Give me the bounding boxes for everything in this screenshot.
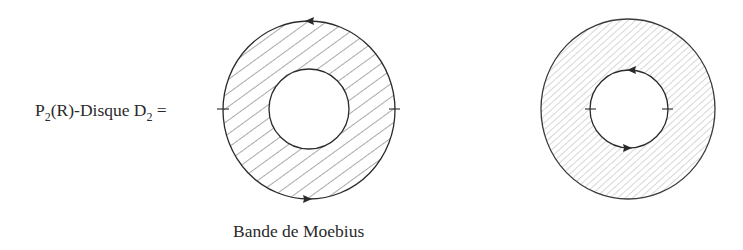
annulus-diagram	[530, 10, 730, 210]
label-middle: (R)-Disque D	[51, 100, 147, 120]
caption-moebius-band: Bande de Moebius	[233, 221, 364, 241]
moebius-band-diagram	[200, 10, 420, 210]
label-prefix: P	[35, 100, 45, 120]
moebius-diagram-figure: P2(R)-Disque D2 = Bande de Moebius	[0, 0, 743, 250]
left-equation-label: P2(R)-Disque D2 =	[35, 100, 167, 124]
inner-boundary-circle	[590, 70, 668, 148]
label-suffix: =	[152, 100, 166, 120]
inner-hole-circle	[269, 69, 349, 149]
